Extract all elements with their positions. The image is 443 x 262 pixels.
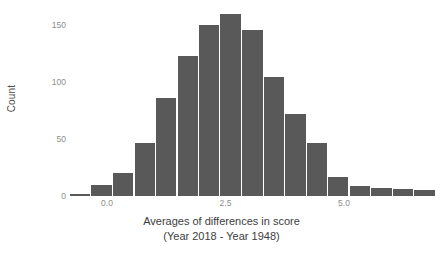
histogram-bar — [242, 30, 262, 196]
histogram-bar — [371, 188, 391, 196]
y-axis-tick-label: 50 — [22, 134, 66, 144]
y-axis-tick-label: 0 — [22, 191, 66, 201]
histogram-bar — [414, 190, 434, 196]
x-axis-title-line-2: (Year 2018 - Year 1948) — [0, 229, 443, 244]
x-axis-tick-labels: 0.02.55.0 — [70, 198, 436, 212]
histogram-bar — [113, 173, 133, 196]
y-axis-tick-label: 100 — [22, 77, 66, 87]
histogram-bar — [328, 177, 348, 196]
histogram-bar — [285, 114, 305, 196]
x-axis-title-line-1: Averages of differences in score — [0, 214, 443, 229]
bars-layer — [70, 6, 436, 196]
plot-panel — [70, 6, 436, 196]
y-axis-tick-label: 150 — [22, 20, 66, 30]
x-axis-tick-label: 2.5 — [220, 198, 232, 208]
histogram-bar — [178, 56, 198, 196]
histogram-bar — [264, 77, 284, 196]
histogram-bar — [91, 185, 111, 196]
histogram-bar — [350, 186, 370, 196]
x-axis-title: Averages of differences in score (Year 2… — [0, 214, 443, 244]
histogram-chart: Count 050100150 0.02.55.0 Averages of di… — [0, 0, 443, 262]
histogram-bar — [220, 14, 240, 196]
histogram-bar — [393, 189, 413, 196]
histogram-bar — [70, 194, 90, 196]
histogram-bar — [135, 143, 155, 196]
x-axis-tick-label: 5.0 — [338, 198, 350, 208]
x-axis-tick-label: 0.0 — [101, 198, 113, 208]
histogram-bar — [156, 98, 176, 196]
histogram-bar — [199, 25, 219, 196]
histogram-bar — [307, 143, 327, 196]
